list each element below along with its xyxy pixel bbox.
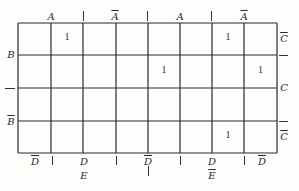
bottom-tick [116, 156, 117, 165]
top-tick [83, 11, 84, 21]
bottom-label-d: D [208, 157, 216, 167]
e-label-e: E [80, 171, 87, 181]
e-label-e-bar: E [208, 171, 215, 181]
top-tick [211, 11, 212, 21]
e-tick [148, 166, 149, 176]
left-label-b-bar: B [7, 117, 14, 127]
right-label-c: C [280, 83, 288, 93]
top-label-a-bar: A [240, 12, 247, 22]
bottom-label-d: D [80, 157, 88, 167]
top-tick [147, 11, 148, 21]
cell-value: 1 [65, 32, 70, 42]
cell-value: 1 [226, 32, 231, 42]
bottom-tick [180, 156, 181, 165]
cell-value: 1 [162, 65, 167, 75]
left-tick [5, 88, 15, 89]
top-label-a-bar: A [111, 12, 118, 22]
bottom-label-d-bar: D [31, 157, 39, 167]
cell-value: 1 [258, 65, 263, 75]
bottom-tick [52, 156, 53, 165]
cell-value: 1 [226, 130, 231, 140]
right-label-c-bar: C [280, 34, 288, 44]
top-label-a: A [176, 12, 183, 22]
right-label-c-bar: C [280, 132, 288, 142]
bottom-tick [244, 156, 245, 165]
top-label-a: A [47, 12, 54, 22]
bottom-label-d-bar: D [258, 157, 266, 167]
left-label-b: B [7, 50, 14, 60]
right-tick [279, 121, 288, 122]
karnaugh-map: AAAABBCCCDDDDDEE11111 [0, 0, 299, 191]
right-tick [279, 55, 288, 56]
